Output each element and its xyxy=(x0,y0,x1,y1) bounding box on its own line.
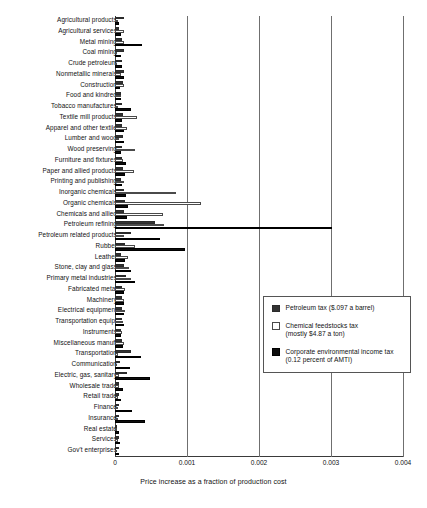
bar-corporate xyxy=(115,227,332,230)
legend-label-chemical-feedstocks-tax: Chemical feedstocks tax (mostly $4.87 a … xyxy=(286,322,359,339)
category-label: Services xyxy=(0,434,117,444)
category-label: Crude petroleum xyxy=(0,58,117,68)
bar-corporate xyxy=(115,302,124,305)
category-label: Transportation equip. xyxy=(0,316,117,326)
category-label: Insurance xyxy=(0,413,117,423)
category-label: Primary metal industries xyxy=(0,273,117,283)
bar-corporate xyxy=(115,194,126,197)
category-label: Tobacco manufactures xyxy=(0,101,117,111)
legend-label-corporate-environmental-income-tax: Corporate environmental income tax (0.12… xyxy=(286,348,394,365)
legend-swatch-petroleum-tax xyxy=(272,305,280,313)
bar-corporate xyxy=(115,313,124,316)
category-label: Wood preserving xyxy=(0,144,117,154)
bar-corporate xyxy=(115,377,150,380)
x-axis-tick-labels: 00.0010.0020.0030.004 xyxy=(0,459,427,473)
category-label: Gov't enterprises xyxy=(0,445,117,455)
category-label: Construction xyxy=(0,80,117,90)
bar-corporate xyxy=(115,44,142,47)
category-label: Agricultural services xyxy=(0,26,117,36)
category-label: Coal mining xyxy=(0,47,117,57)
x-tick-label: 0.002 xyxy=(251,459,268,466)
category-label: Lumber and wood xyxy=(0,133,117,143)
category-label: Electric, gas, sanitary xyxy=(0,370,117,380)
bar-corporate xyxy=(115,367,130,370)
category-label: Electrical equipment xyxy=(0,305,117,315)
bar-corporate xyxy=(115,76,124,79)
bar-corporate xyxy=(115,388,123,391)
bar-corporate xyxy=(115,281,135,284)
category-label: Instruments xyxy=(0,327,117,337)
category-label: Miscellaneous manuf. xyxy=(0,338,117,348)
category-label: Wholesale trade xyxy=(0,381,117,391)
x-tick-label: 0.001 xyxy=(179,459,196,466)
bar-corporate xyxy=(115,248,185,251)
category-label: Apparel and other textile xyxy=(0,123,117,133)
category-label: Communication xyxy=(0,359,117,369)
bar-corporate xyxy=(115,420,145,423)
bar-corporate xyxy=(115,442,120,445)
category-label: Real estate xyxy=(0,424,117,434)
bar-corporate xyxy=(115,410,132,413)
category-label: Petroleum refining xyxy=(0,219,117,229)
category-label: Transportation xyxy=(0,348,117,358)
category-label: Printing and publishing xyxy=(0,176,117,186)
category-label: Organic chemicals xyxy=(0,198,117,208)
category-label: Rubber xyxy=(0,241,117,251)
bar-corporate xyxy=(115,334,121,337)
legend-swatch-corporate-environmental-income-tax xyxy=(272,348,280,356)
legend-label-line2: (0.12 percent of AMTI) xyxy=(286,356,394,365)
bar-corporate xyxy=(115,65,122,68)
category-label: Finance xyxy=(0,402,117,412)
legend-item-corporate-environmental-income-tax: Corporate environmental income tax (0.12… xyxy=(272,348,403,365)
bar-corporate xyxy=(115,22,119,25)
legend-label-line1: Petroleum tax ($.097 a barrel) xyxy=(286,304,375,311)
bar-corporate xyxy=(115,291,124,294)
bar-corporate xyxy=(115,55,121,58)
chart-figure: Agricultural productsAgricultural servic… xyxy=(0,0,427,508)
bar-corporate xyxy=(115,431,119,434)
chart-legend: Petroleum tax ($.097 a barrel) Chemical … xyxy=(263,296,411,373)
bar-corporate xyxy=(115,173,125,176)
bar-corporate xyxy=(115,151,121,154)
category-label: Retail trade xyxy=(0,391,117,401)
bar-corporate xyxy=(115,345,123,348)
bar-corporate xyxy=(115,399,121,402)
category-label: Machinery xyxy=(0,295,117,305)
bar-corporate xyxy=(115,238,160,241)
bar-corporate xyxy=(115,216,127,219)
bar-corporate xyxy=(115,119,122,122)
category-label: Inorganic chemicals xyxy=(0,187,117,197)
bar-corporate xyxy=(115,259,125,262)
category-label: Textile mill products xyxy=(0,112,117,122)
bar-corporate xyxy=(115,98,121,101)
x-tick-label: 0.003 xyxy=(323,459,340,466)
bar-corporate xyxy=(115,453,119,456)
category-label: Chemicals and allied xyxy=(0,209,117,219)
bar-feedstock xyxy=(115,202,201,205)
bar-corporate xyxy=(115,270,131,273)
x-tick-label: 0 xyxy=(113,459,117,466)
bar-corporate xyxy=(115,108,131,111)
legend-item-chemical-feedstocks-tax: Chemical feedstocks tax (mostly $4.87 a … xyxy=(272,322,403,339)
legend-swatch-chemical-feedstocks-tax xyxy=(272,322,280,330)
x-tick-label: 0.004 xyxy=(395,459,412,466)
legend-label-petroleum-tax: Petroleum tax ($.097 a barrel) xyxy=(286,304,375,313)
x-axis-title: Price increase as a fraction of producti… xyxy=(0,478,427,485)
legend-label-line1: Corporate environmental income tax xyxy=(286,348,394,355)
legend-label-line2: (mostly $4.87 a ton) xyxy=(286,330,359,339)
bar-corporate xyxy=(115,356,141,359)
bar-corporate xyxy=(115,162,126,165)
category-rows: Agricultural productsAgricultural servic… xyxy=(0,16,427,457)
category-label: Paper and allied products xyxy=(0,166,117,176)
category-label: Leather xyxy=(0,252,117,262)
category-label: Furniture and fixtures xyxy=(0,155,117,165)
category-label: Petroleum related products xyxy=(0,230,117,240)
category-label: Fabricated metal xyxy=(0,284,117,294)
bar-corporate xyxy=(115,141,124,144)
category-label: Agricultural products xyxy=(0,15,117,25)
category-label: Food and kindred xyxy=(0,90,117,100)
chart-row: Gov't enterprises xyxy=(0,446,427,457)
legend-item-petroleum-tax: Petroleum tax ($.097 a barrel) xyxy=(272,304,403,313)
bar-corporate xyxy=(115,324,124,327)
category-label: Nonmetallic minerals xyxy=(0,69,117,79)
